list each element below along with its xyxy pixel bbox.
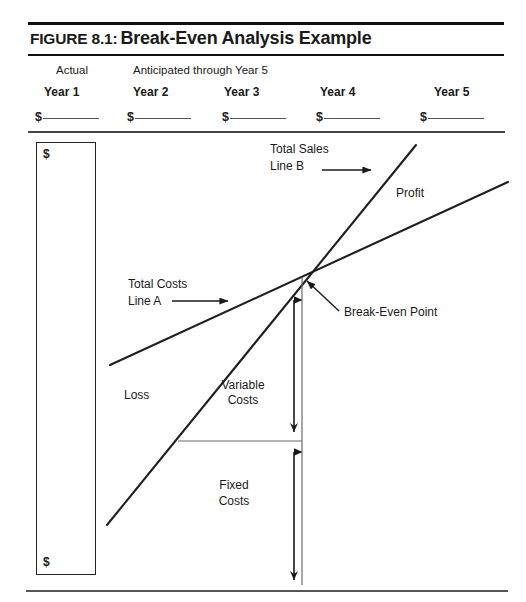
profit-label: Profit [396,186,424,201]
currency-symbol-4: $ [316,110,323,124]
dollar-axis-box: $ $ [36,142,96,575]
axis-bottom-currency: $ [43,555,50,569]
total-costs-line-a [110,182,508,365]
currency-symbol-1: $ [35,110,42,124]
amount-field-year-4[interactable]: $ [316,110,380,124]
currency-symbol-2: $ [127,110,134,124]
year-header-3: Year 3 [224,85,259,99]
amount-field-year-5[interactable]: $ [420,110,484,124]
fixed-costs-label-line2: Costs [196,494,272,509]
title-rule-bottom [28,54,504,56]
variable-costs-label-line2: Costs [205,393,281,408]
amount-field-year-1[interactable]: $ [35,110,99,124]
total-sales-label-line1: Total Sales [270,142,329,157]
total-sales-label-line2: Line B [270,159,304,174]
total-costs-label-line1: Total Costs [128,277,187,292]
actual-note: Actual [56,64,88,76]
break-even-point-label: Break-Even Point [344,305,437,320]
year-header-5: Year 5 [434,85,469,99]
loss-label: Loss [124,388,149,403]
variable-costs-arrow-down-head [290,423,298,432]
title-rule-top [28,22,504,25]
currency-symbol-3: $ [222,110,229,124]
year-header-4: Year 4 [320,85,355,99]
amount-field-year-3[interactable]: $ [222,110,286,124]
header-rule-bottom [28,131,505,133]
axis-top-currency: $ [43,147,50,161]
amount-blank-3[interactable] [230,118,286,119]
fixed-costs-label-line1: Fixed [196,478,272,493]
year-header-1: Year 1 [44,85,79,99]
amount-blank-1[interactable] [43,118,99,119]
amount-blank-5[interactable] [428,118,484,119]
fixed-costs-arrow-down-head [290,571,298,580]
amount-blank-2[interactable] [135,118,191,119]
amount-blank-4[interactable] [324,118,380,119]
figure-name: Break-Even Analysis Example [120,28,371,48]
currency-symbol-5: $ [420,110,427,124]
variable-costs-label-line1: Variable [205,378,281,393]
figure-number: FIGURE 8.1: [30,30,117,47]
anticipated-note: Anticipated through Year 5 [133,64,268,76]
year-header-2: Year 2 [133,85,168,99]
amount-field-year-2[interactable]: $ [127,110,191,124]
page-title: FIGURE 8.1:Break-Even Analysis Example [30,28,371,49]
figure-rule-bottom [26,590,508,592]
break-even-leader-arrow [307,281,339,311]
total-costs-label-line2: Line A [128,294,161,309]
total-sales-line-b [107,145,416,525]
